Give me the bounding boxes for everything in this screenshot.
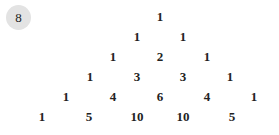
cell-r1-c1: 1 [180, 29, 187, 45]
cell-r1-c0: 1 [134, 29, 141, 45]
cell-r2-c0: 1 [110, 49, 117, 65]
cell-r3-c2: 3 [180, 69, 187, 85]
cell-r5-c4: 5 [229, 109, 236, 125]
cell-r3-c0: 1 [87, 69, 94, 85]
cell-r4-c4: 1 [251, 89, 258, 105]
cell-r5-c1: 5 [86, 109, 93, 125]
cell-r4-c2: 6 [157, 89, 164, 105]
cell-r2-c1: 2 [157, 49, 164, 65]
question-number-badge: 8 [6, 5, 31, 30]
cell-r5-c0: 1 [39, 109, 46, 125]
cell-r5-c2: 10 [131, 109, 144, 125]
cell-r0-c0: 1 [157, 9, 164, 25]
cell-r4-c1: 4 [110, 89, 117, 105]
cell-r5-c3: 10 [177, 109, 190, 125]
cell-r4-c0: 1 [63, 89, 70, 105]
cell-r2-c2: 1 [204, 49, 211, 65]
cell-r3-c3: 1 [227, 69, 234, 85]
cell-r4-c3: 4 [204, 89, 211, 105]
cell-r3-c1: 3 [134, 69, 141, 85]
